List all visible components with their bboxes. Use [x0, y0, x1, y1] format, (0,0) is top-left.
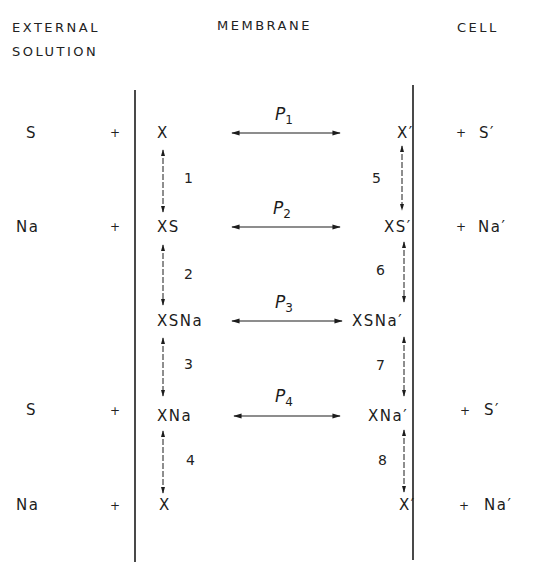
- header-membrane: MEMBRANE: [217, 18, 312, 33]
- outer-carrier-state: XNa: [157, 407, 192, 425]
- plus-sign: +: [459, 499, 469, 513]
- plus-sign: +: [456, 126, 466, 140]
- diagram-lines: [0, 0, 545, 577]
- outer-carrier-state: X: [157, 124, 169, 142]
- permeability-label-p4: P4: [275, 386, 293, 409]
- outer-step-number: 3: [184, 356, 193, 372]
- plus-sign: +: [460, 404, 470, 418]
- plus-sign: +: [110, 499, 120, 513]
- cell-species: S′: [479, 124, 495, 142]
- cell-species: S′: [484, 401, 500, 419]
- inner-carrier-state: XS′: [384, 218, 412, 236]
- external-species: Na: [16, 496, 39, 514]
- external-species: Na: [16, 218, 39, 236]
- outer-step-number: 4: [186, 452, 195, 468]
- inner-step-number: 5: [372, 170, 381, 186]
- cell-species: Na′: [484, 496, 512, 514]
- outer-carrier-state: XS: [157, 218, 180, 236]
- inner-carrier-state: X′: [399, 496, 416, 514]
- outer-step-number: 1: [184, 170, 193, 186]
- inner-step-number: 8: [378, 452, 387, 468]
- permeability-label-p3: P3: [275, 292, 293, 315]
- header-external-solution-line1: EXTERNAL: [12, 20, 100, 35]
- inner-carrier-state: XSNa′: [352, 312, 403, 330]
- inner-step-number: 6: [376, 262, 385, 278]
- plus-sign: +: [456, 220, 466, 234]
- permeability-label-p2: P2: [273, 198, 291, 221]
- header-cell: CELL: [457, 20, 499, 35]
- outer-step-number: 2: [184, 266, 193, 282]
- inner-step-number: 7: [376, 357, 385, 373]
- inner-carrier-state: XNa′: [368, 407, 408, 425]
- external-species: S: [26, 124, 37, 142]
- inner-carrier-state: X′: [397, 124, 414, 142]
- outer-carrier-state: X: [159, 496, 171, 514]
- external-species: S: [26, 401, 37, 419]
- plus-sign: +: [110, 404, 120, 418]
- plus-sign: +: [110, 220, 120, 234]
- outer-carrier-state: XSNa: [157, 312, 203, 330]
- header-external-solution-line2: SOLUTION: [12, 44, 98, 59]
- permeability-label-p1: P1: [275, 104, 293, 127]
- plus-sign: +: [110, 126, 120, 140]
- cell-species: Na′: [478, 218, 506, 236]
